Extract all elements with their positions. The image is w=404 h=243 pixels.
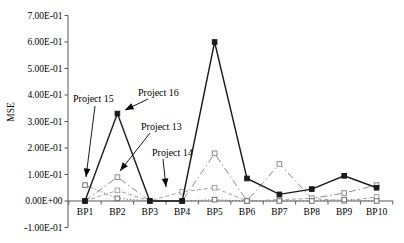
x-tick-label-bp5: BP5: [206, 207, 223, 217]
y-tick-label: 2.00E-01: [27, 143, 62, 153]
annotation-arrowhead-project-16: [124, 103, 135, 113]
x-tick-label-bp7: BP7: [271, 207, 288, 217]
marker-project-14-bp5: [212, 185, 217, 190]
annotation-arrow-line-project-15: [86, 106, 95, 177]
marker-project-15-bp6: [245, 199, 250, 204]
y-tick-label: 0.00E+00: [25, 196, 63, 206]
chart-canvas: 7.00E-016.00E-015.00E-014.00E-013.00E-01…: [0, 0, 404, 243]
y-tick-label: 3.00E-01: [27, 117, 62, 127]
y-tick-label: 4.00E-01: [27, 90, 62, 100]
y-tick-label: 7.00E-01: [27, 11, 62, 21]
marker-project-16-bp10: [374, 185, 379, 190]
x-tick-label-bp1: BP1: [77, 207, 94, 217]
marker-project-16-bp8: [310, 187, 315, 192]
annotation-arrowhead-project-14: [162, 178, 169, 187]
marker-project-16-bp2: [115, 111, 120, 116]
marker-project-15-bp1: [83, 183, 88, 188]
series-line-project-15: [85, 185, 377, 201]
marker-project-15-bp9: [342, 197, 347, 202]
y-tick-label: -1.00E-01: [24, 223, 63, 233]
x-tick-label-bp6: BP6: [239, 207, 256, 217]
marker-project-16-bp6: [245, 176, 250, 181]
x-tick-label-bp10: BP10: [366, 207, 387, 217]
marker-project-16-bp1: [83, 199, 88, 204]
marker-project-15-bp8: [310, 199, 315, 204]
marker-project-13-bp2: [115, 175, 120, 180]
marker-project-13-bp9: [342, 191, 347, 196]
series-line-project-14: [85, 188, 377, 201]
marker-project-15-bp2: [115, 196, 120, 201]
y-tick-label: 6.00E-01: [27, 37, 62, 47]
annotation-arrowhead-project-13: [117, 162, 127, 173]
annotation-label-project-15: Project 15: [73, 93, 114, 104]
marker-project-16-bp3: [148, 199, 153, 204]
x-tick-label-bp9: BP9: [336, 207, 353, 217]
y-tick-label: 1.00E-01: [27, 170, 62, 180]
x-tick-label-bp8: BP8: [304, 207, 321, 217]
y-axis-title: MSE: [6, 102, 16, 122]
annotation-label-project-13: Project 13: [141, 121, 182, 132]
marker-project-15-bp5: [212, 197, 217, 202]
x-tick-label-bp2: BP2: [109, 207, 126, 217]
marker-project-13-bp7: [277, 162, 282, 167]
annotation-label-project-14: Project 14: [152, 147, 193, 158]
x-tick-label-bp4: BP4: [174, 207, 191, 217]
marker-project-14-bp2: [115, 188, 120, 193]
marker-project-16-bp4: [180, 199, 185, 204]
mse-line-chart: 7.00E-016.00E-015.00E-014.00E-013.00E-01…: [0, 0, 404, 243]
y-tick-label: 5.00E-01: [27, 64, 62, 74]
marker-project-16-bp9: [342, 174, 347, 179]
marker-project-16-bp5: [212, 40, 217, 45]
annotation-label-project-16: Project 16: [138, 87, 179, 98]
marker-project-15-bp10: [374, 199, 379, 204]
marker-project-15-bp7: [277, 199, 282, 204]
marker-project-16-bp7: [277, 192, 282, 197]
x-tick-label-bp3: BP3: [142, 207, 159, 217]
marker-project-13-bp5: [212, 151, 217, 156]
